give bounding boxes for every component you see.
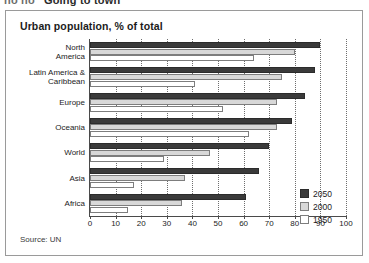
category-label: Asia xyxy=(0,174,85,183)
legend-label: 2000 xyxy=(313,202,332,212)
legend-label: 2050 xyxy=(313,189,332,199)
bar-2050 xyxy=(90,67,315,73)
chart-legend: 205020001950 xyxy=(300,187,360,226)
bar-group: North America xyxy=(90,39,346,64)
x-tick-label-30: 30 xyxy=(162,216,171,228)
bar-2000 xyxy=(90,74,282,80)
category-label: Latin America & Caribbean xyxy=(0,68,85,86)
x-tick-label-80: 80 xyxy=(290,216,299,228)
x-tick-label-20: 20 xyxy=(137,216,146,228)
bar-2000 xyxy=(90,99,277,105)
headline-number: no no xyxy=(4,0,35,6)
x-tick-label-50: 50 xyxy=(214,216,223,228)
source-note: Source: UN xyxy=(20,235,61,244)
bar-2050 xyxy=(90,42,320,48)
chart-figure: Urban population, % of total North Ameri… xyxy=(5,10,363,256)
headline-strip: no noGoing to town xyxy=(0,0,369,9)
category-label: World xyxy=(0,148,85,157)
legend-item: 2000 xyxy=(300,200,360,213)
legend-swatch xyxy=(300,202,309,211)
legend-label: 1950 xyxy=(313,215,332,225)
bar-1950 xyxy=(90,207,128,213)
bar-1950 xyxy=(90,156,164,162)
x-tick-label-60: 60 xyxy=(239,216,248,228)
bar-2000 xyxy=(90,49,295,55)
bar-1950 xyxy=(90,106,223,112)
bar-2000 xyxy=(90,150,210,156)
bar-1950 xyxy=(90,81,195,87)
bar-group: Oceania xyxy=(90,115,346,140)
chart-title: Urban population, % of total xyxy=(20,20,163,32)
legend-swatch xyxy=(300,189,309,198)
bar-2050 xyxy=(90,168,259,174)
bar-1950 xyxy=(90,55,254,61)
legend-item: 2050 xyxy=(300,187,360,200)
category-label: Africa xyxy=(0,199,85,208)
category-label: North America xyxy=(0,43,85,61)
bar-group: Latin America & Caribbean xyxy=(90,64,346,89)
legend-item: 1950 xyxy=(300,213,360,226)
bar-2050 xyxy=(90,194,246,200)
bar-group: Europe xyxy=(90,90,346,115)
category-label: Europe xyxy=(0,98,85,107)
category-label: Oceania xyxy=(0,123,85,132)
x-tick-label-0: 0 xyxy=(88,216,92,228)
bar-group: World xyxy=(90,140,346,165)
bar-2050 xyxy=(90,118,292,124)
bar-1950 xyxy=(90,131,249,137)
bar-2000 xyxy=(90,175,185,181)
bar-2050 xyxy=(90,93,305,99)
x-tick-label-10: 10 xyxy=(111,216,120,228)
x-tick-label-40: 40 xyxy=(188,216,197,228)
bar-1950 xyxy=(90,182,134,188)
x-tick-label-70: 70 xyxy=(265,216,274,228)
legend-swatch xyxy=(300,215,309,224)
bar-2000 xyxy=(90,200,182,206)
headline-text: Going to town xyxy=(44,0,121,6)
bar-2050 xyxy=(90,143,269,149)
bar-2000 xyxy=(90,124,277,130)
